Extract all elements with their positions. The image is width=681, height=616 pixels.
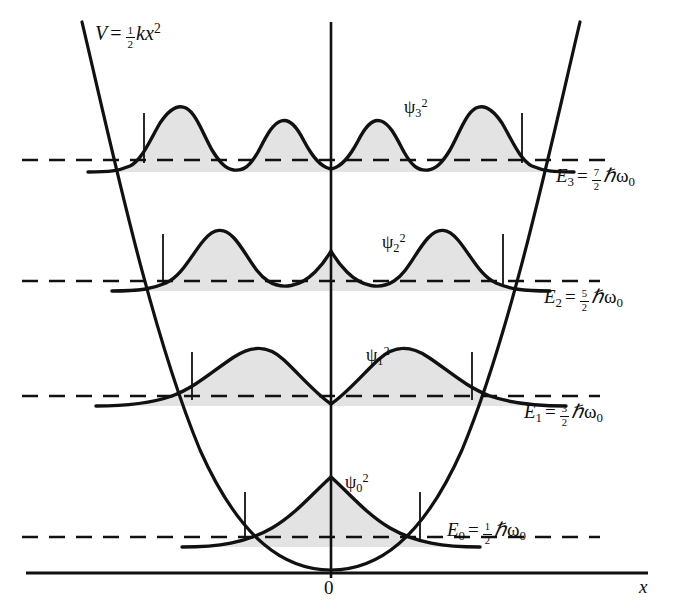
energy-label-2: E2=52ℏω0: [544, 287, 623, 314]
hbar-symbol-2: ℏ: [590, 286, 603, 307]
energy-fraction-num-2: 5: [580, 289, 589, 302]
energy-fraction-2: 52: [580, 289, 589, 313]
energy-fraction-num-0: 1: [483, 522, 492, 535]
hbar-symbol-1: ℏ: [570, 401, 583, 422]
psi-symbol-0: ψ: [345, 472, 356, 492]
energy-fraction-den-3: 2: [592, 181, 601, 193]
potential-equals: =: [107, 22, 124, 44]
potential-symbol: V: [95, 22, 107, 44]
potential-k: k: [136, 22, 145, 44]
psi-exponent-3: 2: [421, 96, 427, 110]
psi1-squared-label: ψ12: [366, 345, 390, 367]
omega-symbol-2: ω: [603, 286, 617, 307]
energy-fraction-0: 12: [483, 522, 492, 546]
energy-equals-0: =: [465, 519, 482, 540]
energy-symbol-0: E: [447, 519, 459, 540]
energy-fraction-num-3: 7: [592, 168, 601, 181]
energy-symbol-3: E: [556, 165, 568, 186]
energy-fraction-num-1: 3: [560, 404, 569, 417]
omega-index-0: 0: [520, 528, 526, 543]
omega-symbol-0: ω: [506, 519, 520, 540]
energy-fraction-den-2: 2: [580, 302, 589, 314]
potential-fraction-denominator: 2: [126, 38, 136, 50]
potential-fraction: 12: [126, 25, 136, 50]
omega-index-1: 0: [597, 410, 603, 425]
energy-label-0: E0=12ℏω0: [447, 520, 526, 547]
energy-label-3: E3=72ℏω0: [556, 166, 635, 193]
psi-exponent-1: 2: [383, 344, 389, 358]
energy-equals-1: =: [542, 401, 559, 422]
psi-symbol-2: ψ: [382, 232, 393, 252]
omega-index-2: 0: [617, 295, 623, 310]
origin-label: 0: [324, 578, 334, 597]
psi-exponent-0: 2: [362, 471, 368, 485]
energy-fraction-1: 32: [560, 404, 569, 428]
omega-symbol-1: ω: [583, 401, 597, 422]
potential-x: x: [145, 22, 154, 44]
energy-symbol-2: E: [544, 286, 556, 307]
omega-index-3: 0: [629, 174, 635, 189]
hbar-symbol-3: ℏ: [602, 165, 615, 186]
energy-fraction-den-1: 2: [560, 417, 569, 429]
potential-equation-label: V=12kx2: [95, 22, 161, 51]
psi-symbol-1: ψ: [366, 345, 377, 365]
omega-symbol-3: ω: [615, 165, 629, 186]
potential-exponent: 2: [154, 21, 161, 36]
psi3-squared-label: ψ32: [404, 97, 428, 119]
x-axis-label: x: [639, 577, 647, 596]
energy-symbol-1: E: [524, 401, 536, 422]
potential-fraction-numerator: 1: [126, 25, 136, 38]
hbar-symbol-0: ℏ: [493, 519, 506, 540]
psi2-squared-label: ψ22: [382, 232, 406, 254]
harmonic-oscillator-figure: V=12kx2 E3=72ℏω0 E2=52ℏω0 E1=32ℏω0 E0=12…: [0, 0, 681, 616]
psi-symbol-3: ψ: [404, 97, 415, 117]
energy-label-1: E1=32ℏω0: [524, 402, 603, 429]
psi0-squared-label: ψ02: [345, 472, 369, 494]
energy-equals-2: =: [562, 286, 579, 307]
energy-fraction-den-0: 2: [483, 535, 492, 547]
psi-exponent-2: 2: [399, 231, 405, 245]
energy-equals-3: =: [574, 165, 591, 186]
energy-fraction-3: 72: [592, 168, 601, 192]
